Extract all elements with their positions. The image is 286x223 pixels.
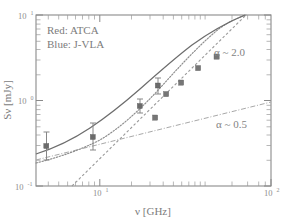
figure-container: Red: ATCA Blue: J-VLA α ~ 2.0 α ~ 0.5 10… — [0, 0, 286, 223]
annotation-alpha-2: α ~ 2.0 — [214, 46, 245, 58]
radio-sed-plot: Red: ATCA Blue: J-VLA α ~ 2.0 α ~ 0.5 10… — [0, 0, 286, 223]
legend-item-atca: Red: ATCA — [47, 24, 99, 36]
y-tick-label-0p1: 10 — [15, 182, 24, 192]
y-tick-label-1: 10 — [18, 96, 27, 106]
jvla-data-series — [153, 54, 220, 120]
legend: Red: ATCA Blue: J-VLA — [47, 24, 104, 50]
annotation-alpha-05: α ~ 0.5 — [216, 118, 247, 130]
data-point — [179, 80, 184, 85]
y-tick-labels: 10 1 10 0 10 -1 — [15, 10, 34, 193]
legend-item-jvla: Blue: J-VLA — [47, 38, 104, 50]
data-point — [196, 66, 201, 71]
y-axis-label: Sν [mJy] — [1, 80, 13, 120]
data-point — [137, 99, 143, 113]
y-tick-exponent-0: 0 — [31, 95, 34, 101]
x-tick-exponent-1: 1 — [106, 187, 109, 193]
x-tick-label-100: 10 — [264, 188, 273, 198]
y-tick-exponent-1: 1 — [31, 10, 34, 16]
x-tick-label-10: 10 — [93, 188, 102, 198]
data-point — [164, 92, 169, 97]
data-point — [44, 132, 50, 160]
x-tick-labels: 10 1 10 2 — [93, 187, 280, 199]
y-tick-exponent-minus1: -1 — [28, 181, 33, 187]
x-axis-label: ν [GHz] — [135, 205, 171, 217]
data-point — [155, 78, 161, 94]
y-tick-label-10: 10 — [18, 11, 27, 21]
x-tick-exponent-2: 2 — [277, 187, 280, 193]
data-point — [153, 115, 158, 120]
alpha-05-line — [36, 102, 271, 160]
